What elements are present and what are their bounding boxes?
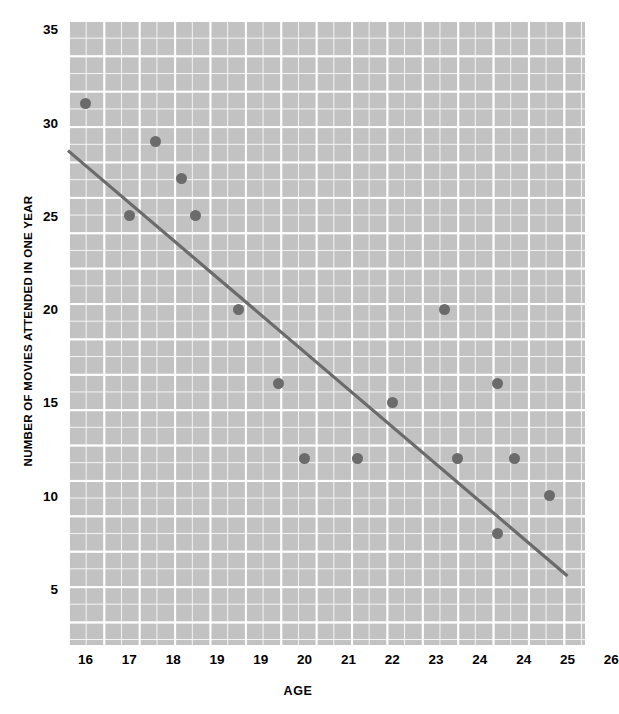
x-axis-tick-label: 18 — [166, 652, 181, 667]
data-point — [233, 304, 244, 315]
x-axis-tick-label: 25 — [560, 652, 575, 667]
x-axis-title: AGE — [0, 684, 596, 698]
data-point — [544, 490, 555, 501]
data-point — [124, 210, 135, 221]
data-point — [387, 397, 398, 408]
y-axis-tick-label: 30 — [43, 115, 58, 130]
x-axis-tick-label: 22 — [385, 652, 400, 667]
data-points-layer — [68, 20, 585, 645]
x-axis-tick-label: 19 — [209, 652, 224, 667]
y-axis: 3530252015105 — [0, 0, 68, 714]
plot-area — [68, 20, 585, 645]
y-axis-tick-label: 5 — [50, 582, 58, 597]
y-axis-tick-label: 35 — [43, 22, 58, 37]
data-point — [273, 378, 284, 389]
data-point — [492, 378, 503, 389]
x-axis-tick-label: 26 — [604, 652, 619, 667]
data-point — [439, 304, 450, 315]
data-point — [150, 136, 161, 147]
data-point — [190, 210, 201, 221]
y-axis-tick-label: 10 — [43, 488, 58, 503]
chart-title — [0, 0, 596, 2]
data-point — [352, 453, 363, 464]
data-point — [509, 453, 520, 464]
y-axis-title: NUMBER OF MOVIES ATTENDED IN ONE YEAR — [22, 71, 34, 591]
x-axis-tick-label: 21 — [341, 652, 356, 667]
x-axis-tick-label: 24 — [472, 652, 487, 667]
y-axis-tick-label: 20 — [43, 302, 58, 317]
x-axis-tick-label: 24 — [516, 652, 531, 667]
data-point — [452, 453, 463, 464]
data-point — [80, 98, 91, 109]
y-axis-tick-label: 25 — [43, 208, 58, 223]
x-axis-tick-label: 17 — [122, 652, 137, 667]
data-point — [492, 528, 503, 539]
x-axis-tick-label: 16 — [78, 652, 93, 667]
data-point — [176, 173, 187, 184]
x-axis: 16171819192021222324242526 — [0, 652, 596, 674]
x-axis-tick-label: 20 — [297, 652, 312, 667]
x-axis-tick-label: 19 — [253, 652, 268, 667]
data-point — [299, 453, 310, 464]
x-axis-tick-label: 23 — [429, 652, 444, 667]
y-axis-tick-label: 15 — [43, 395, 58, 410]
